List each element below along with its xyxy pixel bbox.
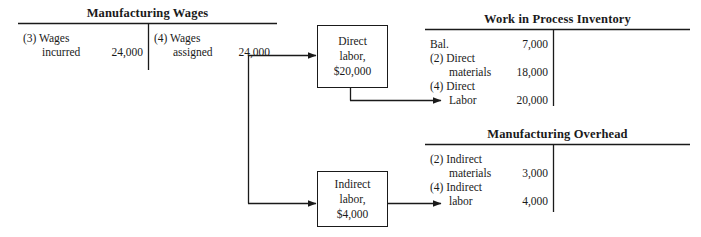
- entry-amount: 24,000: [212, 45, 270, 59]
- entry-label: incurred: [42, 45, 80, 59]
- entry-amount: 18,000: [486, 65, 548, 79]
- entry-ref: Bal.: [430, 37, 449, 51]
- direct-labor-box-line3: $20,000: [334, 64, 371, 79]
- account-title-manufacturing-wages: Manufacturing Wages: [18, 6, 277, 21]
- direct-labor-box: Direct labor, $20,000: [317, 25, 388, 88]
- entry-ref: (2) Direct: [430, 51, 475, 65]
- indirect-labor-box-line3: $4,000: [337, 207, 369, 222]
- entry-ref: (4) Wages: [154, 31, 200, 45]
- connector-wages-to-indirect-labor: [248, 56, 316, 204]
- indirect-labor-box-line1: Indirect: [335, 177, 371, 192]
- entry-label: labor: [449, 194, 473, 208]
- entry-amount: 24,000: [85, 45, 143, 59]
- connector-direct-labor-to-work-in-process: [350, 88, 441, 101]
- entry-label: Labor: [449, 93, 476, 107]
- direct-labor-box-line2: labor,: [339, 49, 365, 64]
- indirect-labor-box: Indirect labor, $4,000: [317, 171, 388, 227]
- entry-ref: (4) Direct: [430, 79, 475, 93]
- entry-amount: 4,000: [486, 194, 548, 208]
- entry-label: materials: [449, 166, 491, 180]
- entry-label: materials: [449, 65, 491, 79]
- account-title-manufacturing-overhead: Manufacturing Overhead: [425, 127, 690, 142]
- entry-label: assigned: [173, 45, 213, 59]
- accounting-flow-diagram: Manufacturing Wages (3) Wages incurred 2…: [0, 0, 701, 237]
- entry-amount: 7,000: [486, 37, 548, 51]
- indirect-labor-box-line2: labor,: [339, 192, 365, 207]
- entry-ref: (2) Indirect: [430, 152, 482, 166]
- entry-amount: 20,000: [486, 93, 548, 107]
- account-title-work-in-process-inventory: Work in Process Inventory: [425, 12, 690, 27]
- direct-labor-box-line1: Direct: [338, 34, 367, 49]
- entry-ref: (3) Wages: [23, 31, 69, 45]
- account-credit-side-manufacturing-wages: (4) Wages assigned 24,000: [154, 31, 274, 59]
- entry-ref: (4) Indirect: [430, 180, 482, 194]
- account-debit-side-manufacturing-wages: (3) Wages incurred 24,000: [23, 31, 143, 59]
- entry-amount: 3,000: [486, 166, 548, 180]
- account-debit-side-manufacturing-overhead: (2) Indirect materials 3,000 (4) Indirec…: [430, 152, 552, 208]
- account-debit-side-work-in-process-inventory: Bal. 7,000 (2) Direct materials 18,000 (…: [430, 37, 552, 107]
